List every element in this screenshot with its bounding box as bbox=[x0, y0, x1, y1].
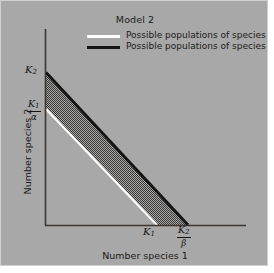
x-tick-label-K2-over-beta: K2 β bbox=[177, 225, 191, 248]
figure-panel: Model 2 Possible populations of species … bbox=[0, 0, 268, 266]
y-axis-title: Number species 2 bbox=[22, 82, 33, 222]
y-tick-label-K2: K2 bbox=[25, 64, 37, 76]
isocline-species-2 bbox=[46, 73, 188, 226]
x-tick-label-K1: K1 bbox=[143, 226, 155, 238]
isocline-species-1 bbox=[46, 109, 157, 225]
plot-area bbox=[1, 1, 268, 266]
x-axis-title: Number species 1 bbox=[45, 250, 245, 261]
